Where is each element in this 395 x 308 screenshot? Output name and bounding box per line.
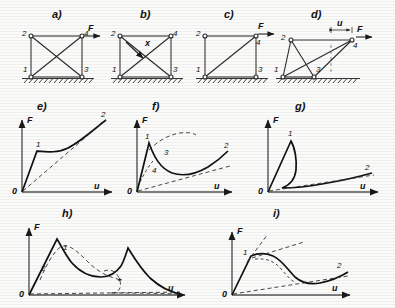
plot-i-xlabel: u (332, 283, 338, 293)
truss-a-node-1: 1 (23, 65, 27, 74)
truss-a-force-label: F (88, 23, 94, 33)
truss-a-node-3: 3 (84, 65, 88, 74)
plot-e-ylabel: F (27, 115, 33, 125)
plot-letter-i: i) (273, 207, 280, 219)
truss-b-x-label: x (145, 38, 150, 48)
plot-i-origin: 0 (222, 289, 227, 299)
truss-c (196, 34, 274, 83)
truss-c-force-label: F (258, 21, 264, 31)
plot-f-point-1: 1 (145, 132, 149, 141)
figure-canvas: a) b) c) d) 2 4 1 3 F 2 4 1 3 x 2 4 1 3 … (0, 0, 395, 308)
truss-c-node-1: 1 (196, 65, 200, 74)
plot-g-xlabel: u (360, 181, 366, 191)
truss-b-node-2: 2 (111, 29, 115, 38)
plot-g-origin: 0 (258, 186, 263, 196)
truss-b-node-4: 4 (173, 29, 177, 38)
plot-e-point-1: 1 (36, 140, 40, 149)
plot-i-point-2: 2 (337, 261, 341, 270)
panel-letter-d: d) (311, 8, 321, 20)
panel-letter-b: b) (140, 8, 150, 20)
plot-f-origin: 0 (127, 186, 132, 196)
truss-a-node-2: 2 (22, 29, 26, 38)
truss-d-node-4: 4 (353, 41, 357, 50)
truss-c-node-3: 3 (258, 65, 262, 74)
plot-f-point-3: 3 (164, 148, 168, 157)
plot-letter-g: g) (295, 100, 305, 112)
truss-d-node-1: 1 (274, 65, 278, 74)
plot-e-xlabel: u (94, 181, 100, 191)
plot-letter-f: f) (152, 100, 159, 112)
plot-g-point-1: 1 (288, 129, 292, 138)
plot-h-point-1: 1 (63, 243, 67, 252)
panel-letter-c: c) (224, 8, 234, 20)
figure-svg (0, 0, 395, 308)
plot-h (29, 228, 185, 295)
panel-letter-a: a) (52, 8, 62, 20)
truss-d-node-2: 2 (281, 33, 285, 42)
plot-g-point-2: 2 (365, 163, 369, 172)
plot-e-point-2: 2 (101, 110, 105, 119)
plot-f-xlabel: u (214, 181, 220, 191)
truss-b-node-3: 3 (173, 65, 177, 74)
plot-g-ylabel: F (273, 115, 279, 125)
plot-e-origin: 0 (12, 186, 17, 196)
plot-h-point-2: 2 (41, 264, 45, 273)
truss-c-node-2: 2 (196, 29, 200, 38)
truss-b-node-1: 1 (112, 65, 116, 74)
truss-d (276, 27, 372, 83)
truss-d-node-3: 3 (316, 65, 320, 74)
plot-f-point-2: 2 (224, 141, 228, 150)
plot-h-xlabel: u (168, 283, 174, 293)
truss-d-displacement-label: u (337, 18, 343, 28)
plot-h-ylabel: F (34, 222, 40, 232)
plot-f-point-4: 4 (152, 166, 156, 175)
plot-letter-h: h) (62, 207, 72, 219)
plot-i-point-1: 1 (243, 248, 247, 257)
truss-c-node-4: 4 (256, 38, 260, 47)
plot-h-origin: 0 (19, 289, 24, 299)
truss-a (22, 34, 100, 83)
plot-i-ylabel: F (237, 226, 243, 236)
plot-f-ylabel: F (142, 115, 148, 125)
plot-letter-e: e) (37, 100, 47, 112)
truss-d-force-label: F (357, 24, 363, 34)
